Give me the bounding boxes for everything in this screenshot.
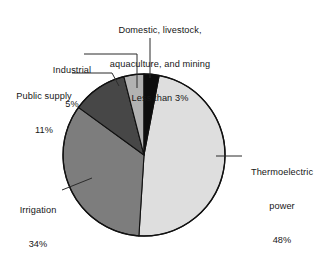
pie-label-public-supply-value: 11% — [0, 125, 88, 136]
pie-label-domestic-line1: Domestic, livestock, — [82, 25, 238, 36]
pie-label-public-supply: Public supply 11% — [0, 68, 88, 159]
pie-label-public-supply-line1: Public supply — [0, 91, 88, 102]
pie-label-irrigation: Irrigation 34% — [2, 182, 74, 259]
pie-label-thermoelectric: Thermoelectric power 48% — [244, 144, 320, 259]
pie-chart-figure: Domestic, livestock, aquaculture, and mi… — [0, 0, 320, 259]
pie-label-irrigation-value: 34% — [2, 239, 74, 250]
pie-label-thermoelectric-value: 48% — [244, 235, 320, 246]
pie-label-irrigation-line1: Irrigation — [2, 205, 74, 216]
pie-label-thermoelectric-line2: power — [244, 201, 320, 212]
pie-label-thermoelectric-line1: Thermoelectric — [244, 167, 320, 178]
